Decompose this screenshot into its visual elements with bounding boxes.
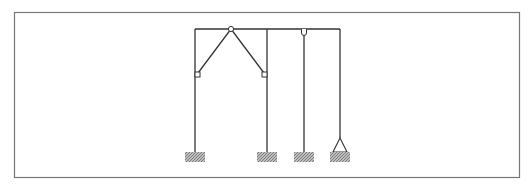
hinge-apex-icon — [228, 26, 233, 31]
strut-left — [198, 29, 231, 73]
pinned-support-base-icon — [330, 152, 350, 162]
structural-frame-diagram — [0, 0, 531, 186]
pinned-support-triangle-icon — [333, 138, 347, 152]
fixed-support-2-icon — [257, 152, 277, 162]
strut-right — [231, 29, 264, 73]
hinge-left-strut-icon — [195, 72, 200, 77]
fixed-support-1-icon — [185, 152, 205, 162]
hinge-right-strut-icon — [262, 72, 267, 77]
hinge-column-3-top-icon — [302, 29, 307, 36]
fixed-support-3-icon — [294, 152, 314, 162]
